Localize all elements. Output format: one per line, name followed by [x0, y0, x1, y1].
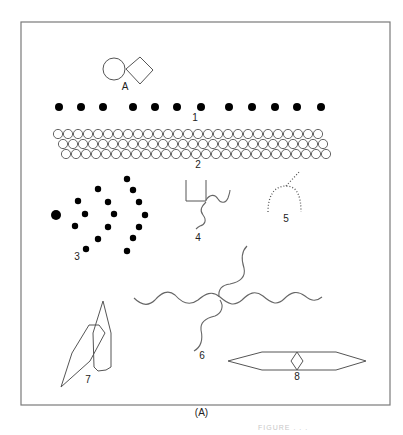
ring-circle	[238, 139, 247, 148]
ring-circle	[83, 129, 92, 138]
ring-circle	[241, 149, 250, 158]
ring-circle	[203, 129, 212, 138]
ring-circle	[181, 149, 190, 158]
dotted-stem	[286, 171, 300, 186]
ring-circle	[103, 129, 112, 138]
ring-circle	[138, 139, 147, 148]
ring-circle	[223, 129, 232, 138]
ring-circle	[133, 129, 142, 138]
item-7-overlapping-polygons: 7	[61, 301, 111, 387]
ring-circle	[171, 149, 180, 158]
ring-circle	[283, 129, 292, 138]
ring-circle	[88, 139, 97, 148]
large-dot	[51, 210, 61, 220]
dot	[105, 199, 111, 205]
label-8: 8	[294, 371, 300, 382]
ring-circle	[218, 139, 227, 148]
dot	[95, 186, 101, 192]
ring-circle	[153, 129, 162, 138]
ring-circle	[73, 129, 82, 138]
ring-circle	[273, 129, 282, 138]
wavy-line-down	[194, 300, 222, 351]
ring-circle	[68, 139, 77, 148]
circle-shape	[103, 58, 125, 80]
wavy-line-up	[219, 246, 247, 297]
dot	[151, 103, 159, 111]
ring-circle	[101, 149, 110, 158]
ring-circle	[61, 149, 70, 158]
ring-circle	[98, 139, 107, 148]
ring-circle	[71, 149, 80, 158]
ring-circle	[211, 149, 220, 158]
faded-caption: FIGURE . . .	[258, 424, 308, 431]
label-a: A	[122, 81, 129, 92]
dot	[72, 223, 78, 229]
item-5-dotted-arch: 5	[268, 171, 301, 224]
ring-circle	[198, 139, 207, 148]
ring-circle	[191, 149, 200, 158]
ring-circle	[121, 149, 130, 158]
ring-circle	[58, 139, 67, 148]
wavy-line-down	[196, 202, 206, 229]
item-3-dot-arcs: 3	[51, 176, 148, 262]
item-6-crossed-waves: 6	[134, 246, 322, 361]
ring-circle	[298, 139, 307, 148]
ring-circle	[318, 139, 327, 148]
ring-circle	[308, 139, 317, 148]
dot	[82, 211, 88, 217]
ring-circle	[78, 139, 87, 148]
ring-circle	[281, 149, 290, 158]
dot	[124, 248, 130, 254]
ring-circle	[53, 129, 62, 138]
ring-circle	[168, 139, 177, 148]
ring-circle	[118, 139, 127, 148]
ring-circle	[111, 149, 120, 158]
ring-circle	[248, 139, 257, 148]
ring-circle	[303, 129, 312, 138]
ring-circle	[268, 139, 277, 148]
ring-circle	[93, 129, 102, 138]
ring-circle	[151, 149, 160, 158]
ring-circle	[261, 149, 270, 158]
ring-circle	[81, 149, 90, 158]
item-8-hexagon-diamond: 8	[228, 352, 366, 382]
ring-circle	[63, 129, 72, 138]
figure-canvas: A 1 2 3 4 5 6 7 8	[0, 0, 403, 435]
bracket-shape	[186, 180, 206, 201]
ring-circle	[233, 129, 242, 138]
ring-circle	[231, 149, 240, 158]
ring-circle	[278, 139, 287, 148]
dot	[225, 103, 233, 111]
label-3: 3	[74, 251, 80, 262]
dot	[136, 224, 142, 230]
item-4-bracket-wave: 4	[186, 180, 230, 243]
ring-circle	[91, 149, 100, 158]
ring-circle	[161, 149, 170, 158]
ring-circle	[178, 139, 187, 148]
ring-circle	[123, 129, 132, 138]
ring-circle	[253, 129, 262, 138]
figure-frame	[21, 22, 390, 405]
label-4: 4	[195, 232, 201, 243]
dot	[142, 212, 148, 218]
ring-circle	[141, 149, 150, 158]
dot	[95, 236, 101, 242]
ring-circle	[201, 149, 210, 158]
dot	[55, 103, 63, 111]
dot	[130, 235, 136, 241]
label-5: 5	[283, 213, 289, 224]
dot	[173, 103, 181, 111]
ring-circle	[213, 129, 222, 138]
ring-circle	[271, 149, 280, 158]
ring-circle	[251, 149, 260, 158]
ring-circle	[301, 149, 310, 158]
dot	[111, 211, 117, 217]
ring-circle	[313, 129, 322, 138]
dot	[83, 246, 89, 252]
dot	[317, 103, 325, 111]
diamond-shape	[126, 57, 153, 84]
dot	[129, 103, 137, 111]
dot	[197, 103, 205, 111]
ring-circle	[128, 139, 137, 148]
ring-circle	[228, 139, 237, 148]
